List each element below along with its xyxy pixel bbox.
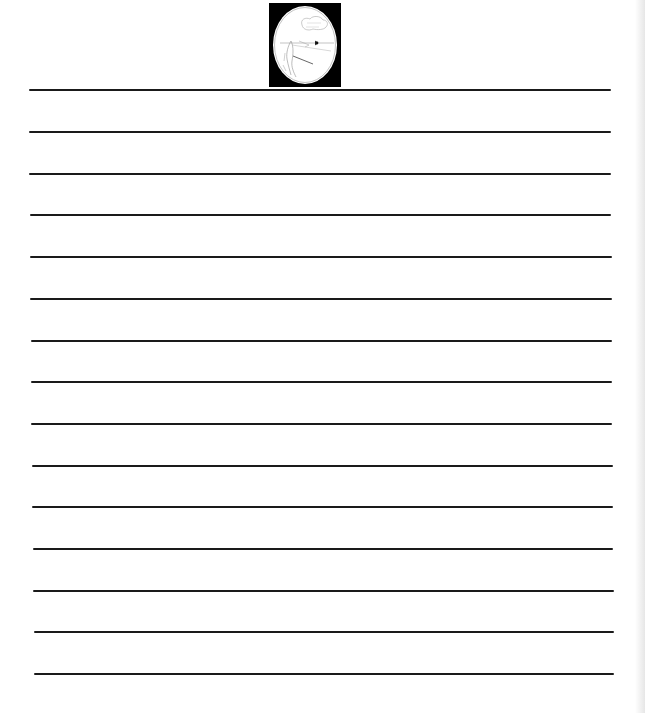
- ruled-line: [31, 340, 612, 342]
- ruled-line: [29, 173, 611, 175]
- scan-edge-shadow: [635, 0, 645, 713]
- archer-figure-oval-emblem-icon: [269, 3, 341, 87]
- ruled-line: [33, 590, 614, 592]
- ruled-line: [32, 465, 613, 467]
- ruled-line: [34, 631, 614, 633]
- ruled-line: [29, 131, 611, 133]
- ruled-line: [34, 673, 614, 675]
- ruled-line: [31, 381, 612, 383]
- ruled-line: [32, 506, 613, 508]
- ruled-line: [30, 298, 612, 300]
- ruled-line: [33, 548, 613, 550]
- ruled-line: [30, 214, 611, 216]
- ruled-line: [31, 423, 612, 425]
- lined-paper-page: [0, 0, 645, 713]
- ruled-line: [30, 256, 612, 258]
- ruled-line: [29, 89, 611, 91]
